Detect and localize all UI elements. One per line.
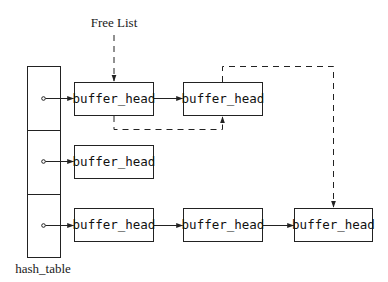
row0-node1: buffer_head — [182, 83, 265, 116]
row2-node2: buffer_head — [292, 209, 375, 242]
buffer-head-label: buffer_head — [182, 217, 265, 232]
row1-node0: buffer_head — [73, 146, 156, 179]
hash-table-label: hash_table — [15, 261, 71, 276]
buffer-head-label: buffer_head — [292, 217, 375, 232]
hash-slot-0-pointer-icon — [42, 97, 46, 101]
buffer-head-label: buffer_head — [73, 154, 156, 169]
buffer-head-label: buffer_head — [182, 91, 265, 106]
row2-node0: buffer_head — [73, 209, 156, 242]
buffer-head-label: buffer_head — [73, 217, 156, 232]
row0-node0: buffer_head — [73, 83, 156, 116]
hash-slot-1-pointer-icon — [42, 160, 46, 164]
free-list-link-0-1 — [114, 116, 223, 130]
buffer-cache-diagram: Free List hash_table buffer_head buffer_… — [0, 0, 388, 282]
buffer-head-label: buffer_head — [73, 91, 156, 106]
free-list-label: Free List — [91, 15, 138, 30]
hash-slot-2-pointer-icon — [42, 224, 46, 228]
row2-node1: buffer_head — [182, 209, 265, 242]
